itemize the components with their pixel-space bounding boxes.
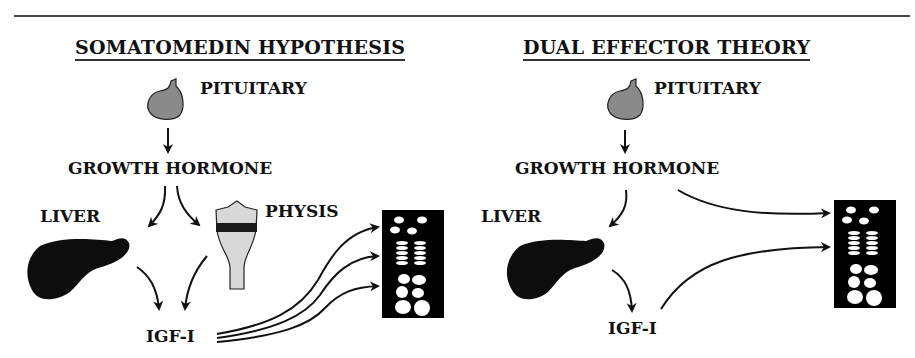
liver-icon (27, 238, 129, 299)
arrow-igf-to-cartilage (661, 247, 829, 309)
pituitary-gland-icon (608, 79, 643, 119)
arrow-liver-to-igf (612, 270, 632, 311)
arrow-gh-to-liver (610, 190, 626, 226)
liver-icon (507, 238, 605, 299)
arrow-gh-to-physis (177, 186, 199, 225)
pituitary-gland-icon (148, 79, 183, 119)
arrow-liver-to-igf (137, 267, 159, 309)
cartilage-cells-icon (834, 200, 896, 308)
physis-icon (216, 201, 257, 289)
arrow-gh-to-cartilage (678, 190, 829, 214)
arrow-gh-to-liver (149, 186, 165, 226)
diagram-artwork (0, 0, 915, 358)
arrow-physis-to-igf (185, 256, 207, 309)
cartilage-cells-icon (382, 210, 444, 318)
